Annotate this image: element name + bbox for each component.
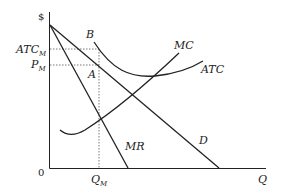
marginal-revenue-curve <box>50 25 128 168</box>
mr-label: MR <box>124 140 145 153</box>
monopoly-diagram: $ 0 Q ATCM PM QM B A MC ATC MR D <box>0 0 283 196</box>
q-m-label: QM <box>91 173 108 188</box>
atc-m-label: ATCM <box>15 43 47 58</box>
mc-label: MC <box>173 39 194 52</box>
atc-label: ATC <box>200 63 225 76</box>
origin-label: 0 <box>38 167 44 178</box>
x-axis-label: Q <box>258 173 267 186</box>
point-a-label: A <box>87 68 96 81</box>
point-b-label: B <box>85 28 94 41</box>
d-label: D <box>198 134 208 147</box>
p-m-label: PM <box>30 58 46 73</box>
y-axis-label: $ <box>38 11 44 22</box>
